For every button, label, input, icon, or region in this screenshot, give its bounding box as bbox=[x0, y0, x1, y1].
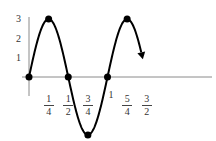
x-tick-label: 34 bbox=[82, 94, 94, 117]
x-tick-label: 14 bbox=[43, 94, 55, 117]
y-tick-label-2: 2 bbox=[16, 34, 21, 44]
y-tick-label-3: 3 bbox=[16, 14, 21, 24]
x-tick-label: 32 bbox=[141, 94, 153, 117]
x-tick-label: 1 bbox=[109, 90, 114, 100]
sine-graph bbox=[0, 0, 216, 141]
arrowhead-icon bbox=[137, 51, 145, 59]
y-tick-label-1: 1 bbox=[16, 53, 21, 63]
data-point bbox=[104, 74, 111, 81]
data-point bbox=[45, 16, 52, 23]
x-tick-label: 54 bbox=[121, 94, 133, 117]
data-point bbox=[26, 74, 33, 81]
x-tick-label: 12 bbox=[62, 94, 74, 117]
data-point bbox=[84, 131, 91, 138]
data-point bbox=[124, 16, 131, 23]
data-point bbox=[65, 74, 72, 81]
